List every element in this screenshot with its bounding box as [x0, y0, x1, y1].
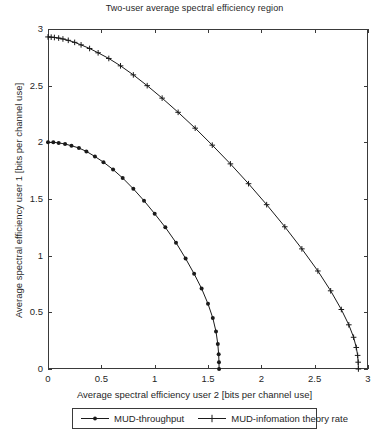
x-tick-label: 2	[241, 373, 281, 384]
legend-label-1: MUD-infomation theory rate	[231, 413, 348, 424]
y-axis-label: Average spectral efficiency user 1 [bits…	[13, 31, 24, 371]
legend-label-0: MUD-throughput	[114, 413, 184, 424]
x-tick-label: 0.5	[81, 373, 121, 384]
x-tick-label: 0	[28, 373, 68, 384]
axis-ticks	[48, 29, 369, 370]
x-tick-label: 1.5	[188, 373, 228, 384]
x-tick-label: 2.5	[295, 373, 335, 384]
x-axis-label: Average spectral efficiency user 2 [bits…	[0, 389, 389, 400]
series-0	[46, 140, 221, 371]
data-series-group	[45, 34, 361, 372]
chart-legend: MUD-throughput MUD-infomation theory rat…	[72, 408, 317, 429]
series-1	[45, 34, 361, 372]
legend-entry-mud-information-theory-rate: MUD-infomation theory rate	[197, 413, 348, 424]
x-tick-label: 1	[135, 373, 175, 384]
legend-entry-mud-throughput: MUD-throughput	[80, 413, 184, 424]
axes-frame	[49, 30, 368, 369]
legend-marker-plus-icon	[197, 413, 227, 424]
plot-canvas	[0, 0, 389, 436]
chart-figure: Two-user average spectral efficiency reg…	[0, 0, 389, 436]
x-tick-label: 3	[348, 373, 388, 384]
legend-marker-dot-icon	[80, 413, 110, 424]
